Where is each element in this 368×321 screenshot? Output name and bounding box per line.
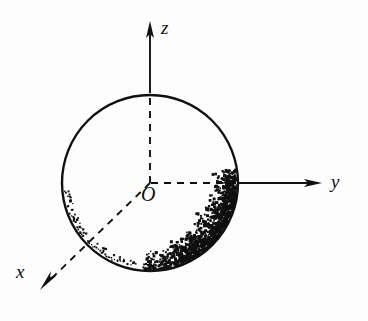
scatter-point	[221, 204, 223, 206]
scatter-point	[188, 254, 191, 257]
scatter-point	[98, 249, 99, 250]
scatter-point	[218, 217, 221, 220]
scatter-point	[81, 227, 82, 228]
scatter-point	[176, 241, 179, 244]
scatter-point	[203, 250, 205, 252]
scatter-point	[169, 246, 171, 248]
scatter-point	[85, 232, 87, 234]
scatter-point	[228, 175, 231, 178]
scatter-point	[208, 205, 210, 207]
scatter-point	[223, 208, 226, 211]
scatter-point	[169, 263, 172, 266]
scatter-point	[219, 182, 221, 184]
scatter-point	[234, 190, 236, 192]
scatter-point	[200, 223, 202, 225]
scatter-point	[224, 211, 226, 213]
scatter-point	[81, 234, 82, 235]
scatter-point	[172, 245, 175, 248]
scatter-point	[130, 260, 132, 262]
scatter-point	[232, 173, 234, 175]
scatter-point	[159, 259, 161, 261]
scatter-point	[114, 259, 115, 260]
scatter-point	[161, 254, 163, 256]
scatter-point	[210, 232, 211, 233]
scatter-point	[108, 256, 109, 257]
scatter-point	[210, 241, 213, 244]
z-axis-label: z	[161, 18, 168, 37]
scatter-point	[171, 253, 173, 255]
scatter-point	[201, 251, 203, 253]
scatter-point	[214, 198, 215, 199]
scatter-point	[167, 249, 169, 251]
scatter-point	[199, 230, 201, 232]
scatter-point	[150, 258, 152, 260]
scatter-point	[222, 193, 224, 195]
scatter-point	[233, 171, 235, 173]
scatter-point	[222, 183, 223, 184]
scatter-point	[202, 247, 204, 249]
scatter-point	[113, 254, 114, 255]
scatter-point	[99, 250, 100, 251]
scatter-point	[188, 245, 190, 247]
scatter-point	[226, 207, 228, 209]
scatter-point	[146, 254, 148, 256]
scatter-point	[195, 250, 197, 252]
scatter-point	[182, 238, 184, 240]
scatter-point	[195, 254, 198, 257]
scatter-point	[232, 186, 234, 188]
scatter-point	[216, 210, 219, 213]
scatter-point	[183, 255, 185, 257]
scatter-point	[183, 250, 185, 252]
scatter-point	[175, 261, 178, 264]
scatter-point	[83, 232, 85, 234]
scatter-point	[234, 174, 236, 176]
scatter-point	[79, 223, 80, 224]
scatter-point	[175, 248, 177, 250]
scatter-point	[212, 173, 215, 176]
scatter-point	[104, 253, 106, 255]
scatter-point	[201, 233, 204, 236]
scatter-point	[73, 218, 75, 220]
scatter-point	[217, 199, 218, 200]
y-axis-label: y	[331, 172, 339, 191]
scatter-point	[199, 249, 201, 251]
scatter-point	[179, 244, 180, 245]
scatter-point	[180, 240, 183, 243]
scatter-point	[229, 203, 232, 206]
scatter-point	[111, 259, 112, 260]
scatter-point	[148, 253, 149, 254]
scatter-point	[219, 230, 221, 232]
scatter-point	[119, 259, 121, 261]
scatter-point	[190, 235, 193, 238]
scatter-point	[232, 190, 234, 192]
scatter-point	[194, 242, 197, 245]
scatter-point	[120, 256, 121, 257]
scatter-point	[208, 242, 210, 244]
scatter-point	[177, 261, 179, 263]
scatter-point	[158, 268, 159, 269]
scatter-point	[105, 248, 107, 250]
scatter-point	[180, 258, 182, 260]
scatter-point	[225, 185, 228, 188]
scatter-point	[149, 260, 152, 263]
scatter-point	[220, 213, 222, 215]
scatter-point	[211, 208, 213, 210]
scatter-point	[219, 187, 221, 189]
scatter-point	[229, 197, 232, 200]
scatter-point	[153, 268, 155, 270]
scatter-point	[191, 239, 193, 241]
scatter-point	[120, 260, 121, 261]
scatter-point	[211, 230, 213, 232]
scatter-point	[232, 188, 234, 190]
scatter-point	[178, 259, 180, 261]
scatter-point	[186, 253, 188, 255]
scatter-point	[217, 234, 218, 235]
scatter-point	[97, 243, 99, 245]
scatter-point	[207, 246, 208, 247]
scatter-point	[186, 250, 188, 252]
scatter-point	[203, 231, 205, 233]
scatter-point	[193, 251, 196, 254]
scatter-point	[161, 262, 163, 264]
scatter-point	[180, 262, 182, 264]
scatter-point	[180, 250, 183, 253]
